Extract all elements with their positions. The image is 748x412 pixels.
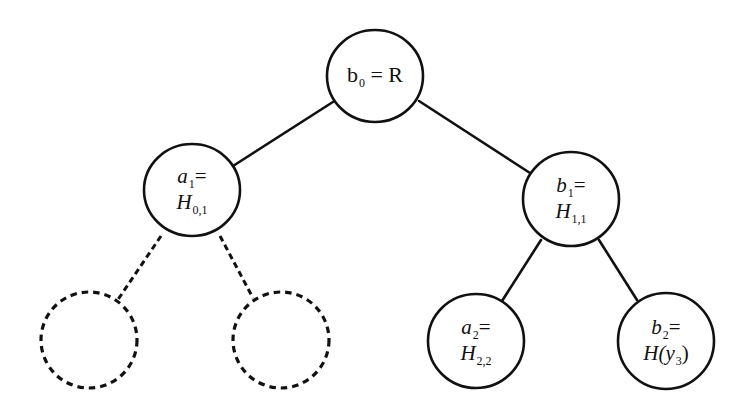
root-equals: = [365, 62, 388, 87]
a1-label-line1: a1= [132, 163, 252, 189]
a1-hash-subscript: 0,1 [193, 203, 208, 217]
b1-label-line2: H1,1 [511, 198, 631, 224]
a2-hash-var: H [460, 341, 475, 365]
b2-var: b [651, 315, 662, 339]
a2-var: a [461, 315, 472, 339]
node-label-a1: a1= H0,1 [132, 163, 252, 215]
a1-hash-var: H [176, 190, 191, 214]
a2-subscript: 2 [473, 328, 479, 342]
b1-equals: = [574, 173, 586, 197]
a1-var: a [177, 164, 188, 188]
edge-root-to-b1 [419, 101, 530, 173]
b1-subscript: 1 [568, 186, 574, 200]
b2-hash-rest: ) [682, 341, 689, 365]
b1-hash-var: H [555, 199, 570, 223]
tree-node-dashed-left [41, 292, 137, 388]
node-label-b2: b2= H(y3) [606, 314, 726, 366]
root-subscript: 0 [359, 76, 365, 90]
b2-label-line1: b2= [606, 314, 726, 340]
a2-equals: = [479, 315, 491, 339]
edge-a1-to-dashed-left [117, 236, 161, 301]
a2-label-line2: H2,2 [416, 340, 536, 366]
a1-label-line2: H0,1 [132, 189, 252, 215]
b2-label-line2: H(y3) [606, 340, 726, 366]
tree-node-dashed-right [233, 292, 329, 388]
node-label-b1: b1= H1,1 [511, 172, 631, 224]
b2-equals: = [669, 315, 681, 339]
edge-a1-to-dashed-right [220, 236, 253, 298]
b2-hash-subscript: 3 [676, 354, 682, 368]
root-var: b [347, 62, 358, 87]
node-label-a2: a2= H2,2 [416, 314, 536, 366]
root-label-line: b0 = R [315, 62, 435, 88]
node-label-root: b0 = R [315, 62, 435, 88]
a1-subscript: 1 [189, 177, 195, 191]
b1-var: b [556, 173, 567, 197]
a1-equals: = [195, 164, 207, 188]
b2-hash-var: H(y [643, 341, 674, 365]
root-rhs: R [388, 62, 403, 87]
a2-hash-subscript: 2,2 [477, 354, 492, 368]
b1-label-line1: b1= [511, 172, 631, 198]
edge-b1-to-a2 [502, 240, 541, 301]
edge-root-to-a1 [233, 100, 336, 166]
b1-hash-subscript: 1,1 [572, 212, 587, 226]
edge-b1-to-b2 [599, 240, 637, 300]
a2-label-line1: a2= [416, 314, 536, 340]
b2-subscript: 2 [663, 328, 669, 342]
